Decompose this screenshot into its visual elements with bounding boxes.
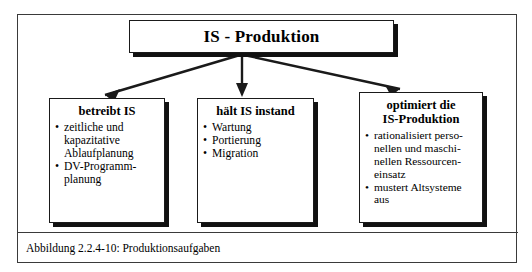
list-item-text: rationalisiert perso- nellen und maschi-…	[374, 129, 463, 180]
bullet-icon: •	[365, 181, 369, 194]
list-item-text: zeitliche und kapazitative Ablaufplanung	[64, 121, 134, 160]
list-item-text: mustert Altsysteme aus	[374, 181, 462, 206]
root-node-title: IS - Produktion	[203, 27, 319, 47]
list-item: •DV-Programm- planung	[54, 160, 160, 186]
arrow-to-optimiert-die-is-produktion	[244, 55, 400, 96]
bullet-icon: •	[203, 147, 207, 160]
node-haelt-is-instand[interactable]: hält IS instand •Wartung •Portierung •Mi…	[197, 98, 314, 223]
node-betreibt-is[interactable]: betreibt IS •zeitliche und kapazitative …	[49, 98, 165, 223]
bullet-icon: •	[203, 134, 207, 147]
node-title: hält IS instand	[202, 104, 309, 118]
list-item-text: Portierung	[212, 134, 261, 147]
bullet-icon: •	[55, 121, 59, 134]
root-node-is-produktion[interactable]: IS - Produktion	[129, 20, 394, 53]
node-bullet-list: •zeitliche und kapazitative Ablaufplanun…	[54, 121, 160, 186]
node-bullet-list: •Wartung •Portierung •Migration	[202, 121, 309, 160]
diagram-canvas: IS - Produktion betreibt IS •zeitliche u…	[18, 15, 518, 234]
figure-frame: IS - Produktion betreibt IS •zeitliche u…	[17, 14, 517, 263]
arrow-to-betreibt-is	[105, 55, 240, 102]
list-item: •zeitliche und kapazitative Ablaufplanun…	[54, 121, 160, 160]
node-optimiert-die-is-produktion[interactable]: optimiert die IS-Produktion •rationalisi…	[359, 92, 483, 223]
node-title: betreibt IS	[54, 104, 160, 118]
figure-caption-bar: Abbildung 2.2.4-10: Produktionsaufgaben	[18, 232, 518, 262]
list-item: •mustert Altsysteme aus	[364, 181, 478, 207]
node-title: optimiert die IS-Produktion	[364, 98, 478, 126]
bullet-icon: •	[203, 121, 207, 134]
bullet-icon: •	[365, 129, 369, 142]
figure-caption-text: Abbildung 2.2.4-10: Produktionsaufgaben	[18, 242, 220, 254]
list-item: •Migration	[202, 147, 309, 160]
list-item-text: DV-Programm- planung	[64, 160, 136, 186]
list-item: •Portierung	[202, 134, 309, 147]
list-item: •rationalisiert perso- nellen und maschi…	[364, 129, 478, 181]
bullet-icon: •	[55, 160, 59, 173]
list-item-text: Migration	[212, 147, 258, 160]
node-bullet-list: •rationalisiert perso- nellen und maschi…	[364, 129, 478, 206]
arrow-to-haelt-is-instand	[236, 55, 248, 97]
list-item-text: Wartung	[212, 121, 252, 134]
list-item: •Wartung	[202, 121, 309, 134]
